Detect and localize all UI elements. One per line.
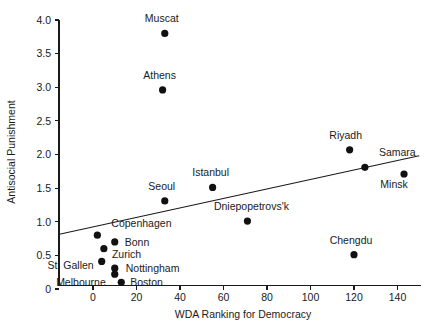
data-point-bonn[interactable]	[111, 238, 118, 245]
data-point-label-seoul: Seoul	[148, 180, 175, 192]
data-point-label-muscat: Muscat	[145, 12, 179, 24]
data-point-minsk[interactable]	[400, 170, 407, 177]
data-point-dniepopetrovs-k[interactable]	[244, 217, 251, 224]
scatter-plot-figure: 020406080100120140 00.51.01.52.02.53.03.…	[0, 0, 429, 327]
data-point-label-minsk: Minsk	[380, 178, 408, 190]
y-tick-label-8: 4.0	[36, 14, 51, 26]
x-tick-label-3: 60	[218, 291, 230, 303]
x-tick-label-0: 0	[90, 291, 96, 303]
data-point-label-copenhagen: Copenhagen	[111, 217, 171, 229]
y-tick-label-2: 1.0	[36, 216, 51, 228]
data-point-samara[interactable]	[361, 164, 368, 171]
data-point-label-st-gallen: St. Gallen	[48, 259, 94, 271]
data-point-label-chengdu: Chengdu	[330, 234, 373, 246]
data-point-st-gallen[interactable]	[98, 258, 105, 265]
data-point-label-istanbul: Istanbul	[192, 166, 229, 178]
y-tick-label-3: 1.5	[36, 182, 51, 194]
data-point-label-zurich: Zurich	[112, 248, 141, 260]
x-tick-label-1: 20	[131, 291, 143, 303]
x-tick-label-5: 100	[302, 291, 320, 303]
y-axis-title: Antisocial Punishment	[5, 100, 17, 203]
y-tick-label-0: 0	[45, 283, 51, 295]
x-tick-labels: 020406080100120140	[90, 291, 406, 303]
data-point-athens[interactable]	[159, 86, 166, 93]
y-tick-label-4: 2.0	[36, 148, 51, 160]
data-point-istanbul[interactable]	[209, 184, 216, 191]
y-tick-labels: 00.51.01.52.02.53.03.54.0	[36, 14, 51, 295]
data-point-boston[interactable]	[118, 279, 125, 286]
data-point-seoul[interactable]	[161, 197, 168, 204]
data-point-label-nottingham: Nottingham	[126, 262, 180, 274]
data-point-label-melbourne: Melbourne	[56, 276, 106, 288]
data-point-chengdu[interactable]	[350, 251, 357, 258]
data-point-label-dniepopetrovs-k: Dniepopetrovs'k	[214, 200, 290, 212]
x-tick-label-6: 120	[345, 291, 363, 303]
data-point-copenhagen[interactable]	[94, 232, 101, 239]
x-tick-label-2: 40	[174, 291, 186, 303]
data-point-label-bonn: Bonn	[125, 236, 150, 248]
data-point-muscat[interactable]	[161, 30, 168, 37]
x-axis-title: WDA Ranking for Democracy	[175, 308, 312, 320]
x-tick-label-4: 80	[261, 291, 273, 303]
data-point-label-riyadh: Riyadh	[329, 129, 362, 141]
data-point-zurich[interactable]	[100, 245, 107, 252]
y-tick-label-6: 3.0	[36, 81, 51, 93]
chart-canvas: 020406080100120140 00.51.01.52.02.53.03.…	[0, 0, 429, 327]
data-point-label-samara: Samara	[379, 146, 416, 158]
x-tick-label-7: 140	[389, 291, 407, 303]
data-point-riyadh[interactable]	[346, 146, 353, 153]
y-tick-label-7: 3.5	[36, 47, 51, 59]
data-point-label-athens: Athens	[143, 69, 176, 81]
data-point-label-boston: Boston	[130, 276, 163, 288]
data-point-melbourne[interactable]	[111, 271, 118, 278]
y-tick-label-5: 2.5	[36, 115, 51, 127]
